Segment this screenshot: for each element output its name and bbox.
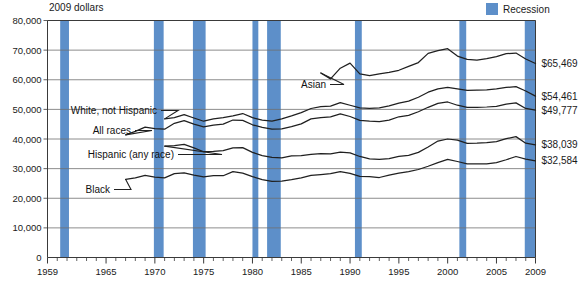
x-tick-label-1985: 1985	[291, 266, 312, 277]
end-value-label-black: $32,584	[542, 155, 579, 166]
y-tick-label-40000: 40,000	[12, 134, 41, 145]
y-tick-label-50000: 50,000	[12, 104, 41, 115]
end-value-label-white-not-hispanic: $54,461	[542, 91, 579, 102]
end-value-label-asian: $65,469	[542, 58, 579, 69]
end-value-label-all-races: $49,777	[542, 105, 579, 116]
chart-canvas: 010,00020,00030,00040,00050,00060,00070,…	[0, 0, 585, 289]
y-tick-label-20000: 20,000	[12, 193, 41, 204]
x-tick-label-1975: 1975	[193, 266, 214, 277]
legend: Recession	[486, 3, 550, 15]
y-tick-labels-group: 010,00020,00030,00040,00050,00060,00070,…	[12, 15, 47, 263]
legend-item-label: Recession	[503, 4, 550, 15]
series-label-hispanic-any-race: Hispanic (any race)	[88, 149, 174, 160]
series-line-hispanic-any-race	[165, 137, 536, 160]
series-line-asian	[321, 49, 536, 79]
income-by-race-chart: 010,00020,00030,00040,00050,00060,00070,…	[0, 0, 585, 289]
x-tickmarks-group	[48, 258, 536, 264]
x-tick-label-1995: 1995	[388, 266, 409, 277]
leader-line-black	[114, 179, 131, 189]
x-tick-label-1990: 1990	[339, 266, 360, 277]
series-label-black: Black	[86, 184, 111, 195]
x-tick-label-1970: 1970	[144, 266, 165, 277]
x-tick-label-1959: 1959	[37, 266, 58, 277]
end-value-label-hispanic-any-race: $38,039	[542, 139, 579, 150]
y-tick-label-80000: 80,000	[12, 15, 41, 26]
series-label-white-not-hispanic: White, not Hispanic	[71, 105, 157, 116]
data-lines-group	[126, 49, 536, 182]
end-value-labels-group: $65,469$54,461$49,777$38,039$32,584	[542, 58, 579, 166]
x-tick-label-1965: 1965	[95, 266, 116, 277]
series-label-all-races: All races	[93, 125, 131, 136]
x-tick-label-2009: 2009	[525, 266, 546, 277]
x-tick-label-2000: 2000	[437, 266, 458, 277]
leader-lines-group	[114, 73, 344, 190]
y-tick-label-0: 0	[36, 252, 41, 263]
y-tick-label-70000: 70,000	[12, 45, 41, 56]
series-label-asian: Asian	[301, 79, 326, 90]
x-tick-labels-group: 1959196519701975198019851990199520002005…	[37, 266, 546, 277]
y-tick-label-30000: 30,000	[12, 163, 41, 174]
x-tick-label-2005: 2005	[486, 266, 507, 277]
y-tick-label-60000: 60,000	[12, 74, 41, 85]
x-tick-label-1980: 1980	[242, 266, 263, 277]
series-line-all-races	[126, 102, 536, 135]
recession-swatch-icon	[486, 3, 498, 15]
y-tick-label-10000: 10,000	[12, 222, 41, 233]
units-label: 2009 dollars	[49, 2, 103, 13]
